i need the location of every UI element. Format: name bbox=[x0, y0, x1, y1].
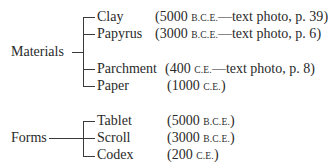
item-papyrus-date: (3000 B.C.E.—text photo, p. 6) bbox=[155, 26, 321, 43]
item-codex: Codex bbox=[97, 147, 134, 163]
connector-line bbox=[49, 138, 83, 139]
item-paper-date: (1000 C.E.) bbox=[167, 78, 226, 95]
item-clay-date: (5000 B.C.E.—text photo, p. 39) bbox=[155, 9, 328, 26]
branch-line bbox=[83, 156, 95, 157]
item-papyrus: Papyrus bbox=[97, 26, 142, 42]
item-tablet-date: (5000 B.C.E.) bbox=[167, 113, 235, 130]
item-parchment: Parchment bbox=[97, 61, 157, 77]
branch-line bbox=[83, 138, 95, 139]
item-scroll: Scroll bbox=[97, 130, 130, 146]
branch-line bbox=[83, 86, 95, 87]
item-paper: Paper bbox=[97, 78, 129, 94]
item-tablet: Tablet bbox=[97, 113, 132, 129]
branch-line bbox=[83, 121, 95, 122]
item-codex-date: (200 C.E.) bbox=[167, 147, 219, 164]
item-parchment-date: (400 C.E.—text photo, p. 8) bbox=[165, 61, 315, 78]
branch-line bbox=[83, 69, 95, 70]
group-label-materials: Materials bbox=[11, 44, 64, 60]
branch-line bbox=[83, 17, 95, 18]
item-clay: Clay bbox=[97, 9, 123, 25]
group-label-forms: Forms bbox=[11, 130, 47, 146]
bracket-line bbox=[83, 17, 84, 86]
branch-line bbox=[83, 34, 95, 35]
item-scroll-date: (3000 B.C.E.) bbox=[167, 130, 235, 147]
bracket-line bbox=[83, 121, 84, 157]
connector-line bbox=[72, 52, 83, 53]
